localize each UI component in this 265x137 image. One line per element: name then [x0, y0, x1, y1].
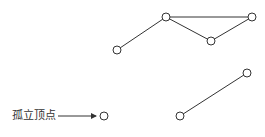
vertex-C	[207, 37, 215, 45]
vertex-D	[248, 13, 256, 21]
isolated-vertex-label: 孤立顶点	[12, 108, 56, 124]
vertex-A	[113, 46, 121, 54]
edge-B-C	[166, 17, 211, 41]
vertices	[100, 13, 256, 120]
vertex-B	[162, 13, 170, 21]
edge-F-E	[180, 73, 247, 116]
edge-C-D	[211, 17, 252, 41]
vertex-E	[243, 69, 251, 77]
edge-A-B	[117, 17, 166, 50]
edges	[117, 17, 252, 116]
vertex-isolated	[100, 112, 108, 120]
vertex-F	[176, 112, 184, 120]
